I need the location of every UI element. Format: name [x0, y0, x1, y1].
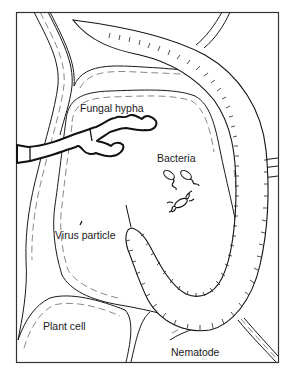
label-nematode: Nematode	[171, 347, 219, 358]
diagram-canvas	[0, 0, 293, 374]
label-fungal-hypha: Fungal hypha	[80, 103, 144, 114]
label-plant-cell: Plant cell	[43, 321, 86, 332]
label-bacteria: Bacteria	[157, 153, 196, 164]
label-virus-particle: Virus particle	[55, 230, 116, 241]
plant-pathogens-diagram: Fungal hypha Bacteria Virus particle Pla…	[0, 0, 293, 374]
